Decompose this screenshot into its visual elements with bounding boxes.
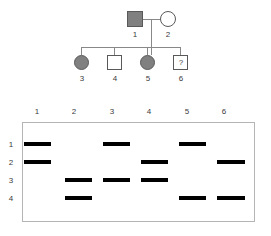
gel-lane-label-6: 6 bbox=[216, 107, 232, 116]
gel-band-lane6-row4 bbox=[217, 196, 245, 200]
gel-band-lane4-row3 bbox=[141, 178, 168, 182]
pedigree-individual-3-label: 3 bbox=[75, 74, 89, 83]
gel-band-lane2-row3 bbox=[65, 178, 92, 182]
pedigree-individual-5-label: 5 bbox=[141, 74, 155, 83]
gel-band-lane1-row1 bbox=[24, 142, 51, 146]
gel-band-lane6-row2 bbox=[217, 160, 245, 164]
unknown-status-question-mark: ? bbox=[174, 56, 188, 70]
pedigree-individual-6-label: 6 bbox=[174, 74, 188, 83]
pedigree-chart: 1 2 3 4 5 ? 6 bbox=[0, 0, 271, 100]
sibling-drop-line-4 bbox=[114, 47, 115, 55]
pedigree-individual-2-symbol[interactable] bbox=[160, 11, 176, 27]
pedigree-individual-2-label: 2 bbox=[161, 30, 175, 39]
gel-row-label-4: 4 bbox=[6, 194, 16, 203]
sibling-drop-line-5 bbox=[147, 47, 148, 55]
gel-row-label-3: 3 bbox=[6, 176, 16, 185]
gel-band-lane3-row1 bbox=[103, 142, 130, 146]
sibship-line bbox=[81, 47, 180, 48]
pedigree-individual-4-label: 4 bbox=[108, 74, 122, 83]
pedigree-individual-1-symbol[interactable] bbox=[127, 11, 143, 27]
gel-band-lane4-row2 bbox=[141, 160, 168, 164]
gel-lane-label-2: 2 bbox=[66, 107, 82, 116]
gel-lane-label-3: 3 bbox=[104, 107, 120, 116]
sibling-drop-line-3 bbox=[81, 47, 82, 55]
descent-line bbox=[151, 19, 152, 55]
gel-electrophoresis-diagram: 1 2 3 4 5 6 1 2 3 4 bbox=[0, 100, 271, 236]
sibling-drop-line-6 bbox=[180, 47, 181, 55]
gel-plate bbox=[22, 122, 255, 222]
pedigree-and-gel-figure: 1 2 3 4 5 ? 6 1 2 3 4 5 6 1 2 3 4 bbox=[0, 0, 271, 236]
gel-row-label-2: 2 bbox=[6, 158, 16, 167]
gel-band-lane2-row4 bbox=[65, 196, 92, 200]
pedigree-individual-4-symbol[interactable] bbox=[107, 55, 122, 70]
pedigree-individual-6-symbol[interactable]: ? bbox=[173, 55, 188, 70]
gel-lane-label-1: 1 bbox=[29, 107, 45, 116]
gel-row-label-1: 1 bbox=[6, 140, 16, 149]
gel-band-lane5-row4 bbox=[179, 196, 206, 200]
pedigree-individual-1-label: 1 bbox=[128, 30, 142, 39]
gel-band-lane3-row3 bbox=[103, 178, 130, 182]
gel-lane-label-5: 5 bbox=[179, 107, 195, 116]
gel-lane-label-4: 4 bbox=[141, 107, 157, 116]
pedigree-individual-5-symbol[interactable] bbox=[140, 55, 155, 70]
gel-band-lane5-row1 bbox=[179, 142, 206, 146]
pedigree-individual-3-symbol[interactable] bbox=[74, 55, 89, 70]
gel-band-lane1-row2 bbox=[24, 160, 51, 164]
